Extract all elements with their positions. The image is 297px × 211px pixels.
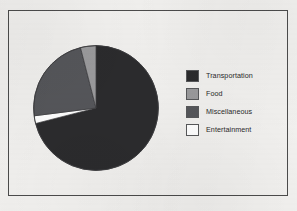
legend-item-miscellaneous[interactable]: Miscellaneous — [186, 105, 282, 118]
legend-swatch-miscellaneous — [186, 106, 199, 118]
legend-label-food: Food — [206, 89, 223, 98]
legend-swatch-entertainment — [186, 124, 199, 136]
legend-label-entertainment: Entertainment — [206, 125, 251, 134]
chart-legend: Transportation Food Miscellaneous Entert… — [186, 69, 282, 141]
pie-chart-screenshot: Transportation Food Miscellaneous Entert… — [0, 0, 297, 211]
pie-chart-graphic — [33, 45, 159, 171]
legend-item-transportation[interactable]: Transportation — [186, 69, 282, 82]
legend-label-transportation: Transportation — [206, 71, 253, 80]
legend-swatch-food — [186, 88, 199, 100]
legend-item-food[interactable]: Food — [186, 87, 282, 100]
legend-swatch-transportation — [186, 70, 199, 82]
pie-slice-group — [34, 46, 159, 171]
pie-svg — [33, 45, 159, 171]
legend-label-miscellaneous: Miscellaneous — [206, 107, 252, 116]
legend-item-entertainment[interactable]: Entertainment — [186, 123, 282, 136]
